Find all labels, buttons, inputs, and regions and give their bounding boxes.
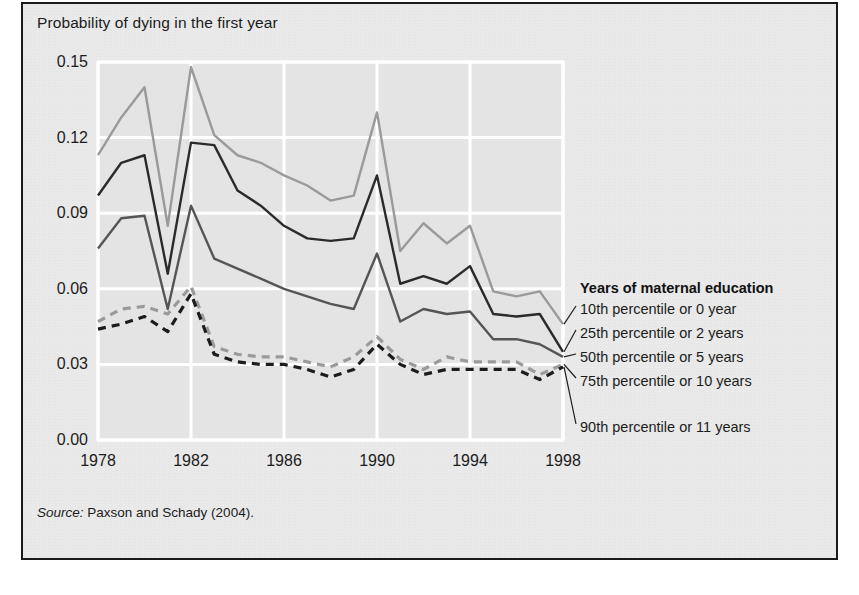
legend-title: Years of maternal education [580,280,830,296]
legend-item-25th: 25th percentile or 2 years [580,321,830,345]
x-tick-label: 1982 [173,452,209,470]
figure: Probability of dying in the first year 0… [0,0,859,595]
y-tick-label: 0.00 [32,431,88,449]
x-tick-label: 1994 [452,452,488,470]
x-tick-label: 1986 [266,452,302,470]
source-label: Source: [37,505,84,520]
x-axis-ticks: 197819821986199019941998 [98,452,563,476]
y-axis-ticks: 0.000.030.060.090.120.15 [32,62,88,440]
x-tick-label: 1990 [359,452,395,470]
source-note: Source: Paxson and Schady (2004). [37,505,254,520]
x-tick-label: 1978 [80,452,116,470]
legend: Years of maternal education 10th percent… [580,280,830,439]
x-tick-label: 1998 [545,452,581,470]
legend-item-50th: 50th percentile or 5 years [580,345,830,369]
legend-item-75th: 75th percentile or 10 years [580,369,830,393]
plot-background [98,62,563,440]
legend-item-10th: 10th percentile or 0 year [580,297,830,321]
plot-area [98,62,563,440]
y-tick-label: 0.12 [32,129,88,147]
source-citation: Paxson and Schady (2004). [84,505,254,520]
plot-svg [98,62,563,440]
y-tick-label: 0.06 [32,280,88,298]
y-tick-label: 0.15 [32,53,88,71]
y-axis-title: Probability of dying in the first year [37,14,278,32]
legend-item-90th: 90th percentile or 11 years [580,415,830,439]
y-tick-label: 0.09 [32,204,88,222]
y-tick-label: 0.03 [32,355,88,373]
